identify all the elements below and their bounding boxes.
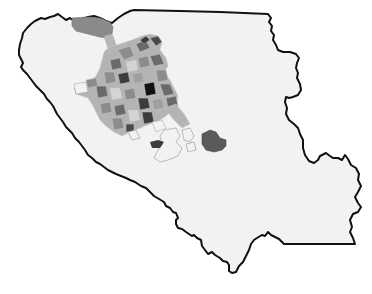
map-svg [0,0,372,294]
choropleth-map [0,0,372,294]
